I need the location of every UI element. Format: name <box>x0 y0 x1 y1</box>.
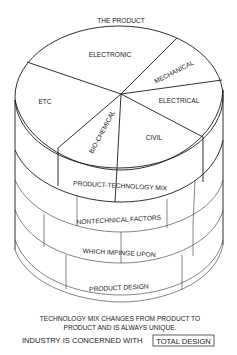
caption-line-3: INDUSTRY IS CONCERNED WITH <box>22 336 142 345</box>
layer-label-product-technology-mix: PRODUCT-TECHNOLOGY MIX <box>73 180 168 192</box>
segment-label-etc: ETC <box>38 98 51 105</box>
segment-label-electronic: ELECTRONIC <box>89 51 132 58</box>
segment-label-electrical: ELECTRICAL <box>159 97 200 104</box>
segment-label-bio-chemical: BIO-CHEMICAL <box>88 109 117 155</box>
layer-label-product-design: PRODUCT DESIGN <box>89 282 149 292</box>
layer-label-nontechnical-factors: NONTECHNICAL FACTORS <box>76 214 161 225</box>
caption-line-1: TECHNOLOGY MIX CHANGES FROM PRODUCT TO <box>40 315 200 322</box>
segment-label-civil: CIVIL <box>146 134 163 141</box>
segment-label-mechanical: MECHANICAL <box>153 59 195 85</box>
total-design-label: TOTAL DESIGN <box>156 337 211 346</box>
mix-band-bottom-arc <box>15 140 223 202</box>
layer-label-which-impinge-upon: WHICH IMPINGE UPON <box>83 247 156 258</box>
caption-line-2: PRODUCT AND IS ALWAYS UNIQUE. <box>64 324 177 332</box>
diagram-title: THE PRODUCT <box>97 17 145 24</box>
product-cylinder-diagram: THE PRODUCT ELECTRONIC MECHANICAL ELECTR… <box>0 0 237 355</box>
